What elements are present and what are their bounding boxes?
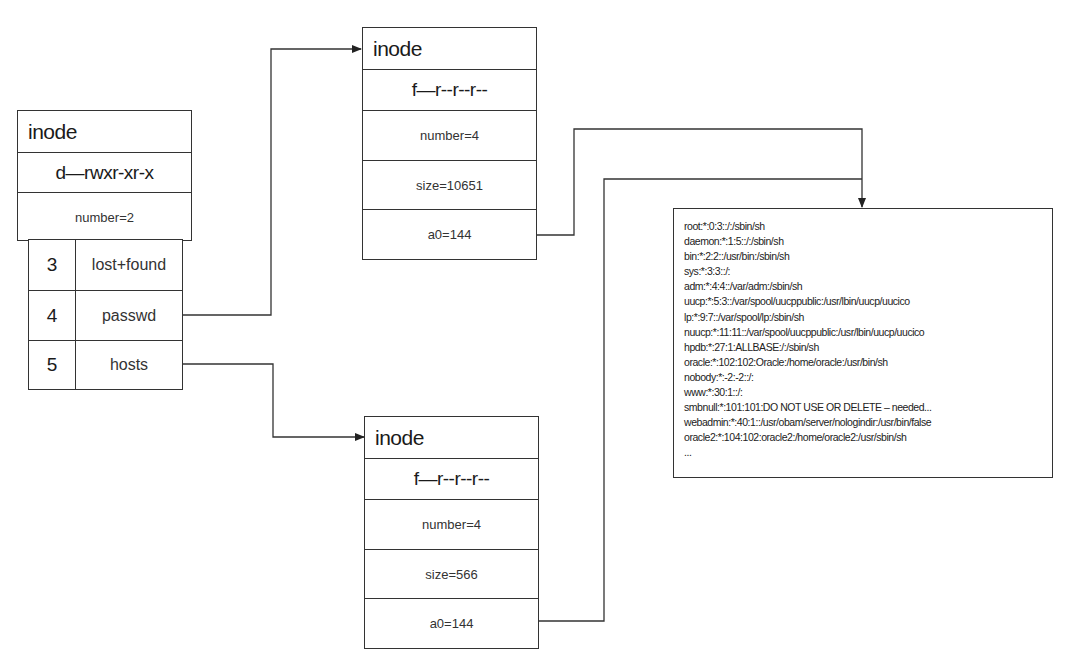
- passwd-line: oracle2:*:104:102:oracle2:/home/oracle2:…: [684, 430, 1052, 445]
- entry-name: passwd: [76, 291, 182, 340]
- root-inode: inode d—rwxr-xr-x number=2: [17, 110, 192, 241]
- passwd-line: webadmin:*:40:1::/usr/obam/server/nologi…: [684, 415, 1052, 430]
- passwd-line: adm:*:4:4::/var/adm:/sbin/sh: [684, 279, 1052, 294]
- passwd-ellipsis: ...: [684, 445, 1052, 460]
- inode-title: inode: [18, 111, 191, 152]
- passwd-line: lp:*:9:7::/var/spool/lp:/sbin/sh: [684, 310, 1052, 325]
- entry-inode-number: 5: [29, 341, 76, 389]
- passwd-line: root:*:0:3::/:/sbin/sh: [684, 219, 1052, 234]
- entry-inode-number: 3: [29, 240, 76, 290]
- inode-size: size=10651: [363, 160, 536, 209]
- entry-inode-number: 4: [29, 291, 76, 340]
- inode-number: number=4: [365, 499, 538, 549]
- arrow-passwd-to-inode: [182, 49, 361, 315]
- directory-entry: 4 passwd: [29, 290, 182, 340]
- passwd-line: bin:*:2:2::/usr/bin:/sbin/sh: [684, 249, 1052, 264]
- directory-entry: 3 lost+found: [29, 240, 182, 290]
- inode-permissions: d—rwxr-xr-x: [18, 152, 191, 192]
- passwd-line: www:*:30:1::/:: [684, 385, 1052, 400]
- entry-name: hosts: [76, 341, 182, 389]
- directory-entries-table: 3 lost+found 4 passwd 5 hosts: [28, 239, 183, 390]
- directory-entry: 5 hosts: [29, 340, 182, 389]
- inode-title: inode: [363, 28, 536, 69]
- passwd-line: uucp:*:5:3::/var/spool/uucppublic:/usr/l…: [684, 294, 1052, 309]
- inode-title: inode: [365, 417, 538, 458]
- inode-permissions: f—r--r--r--: [363, 69, 536, 110]
- passwd-line: nobody:*:-2:-2::/:: [684, 370, 1052, 385]
- passwd-line: smbnull:*:101:101:DO NOT USE OR DELETE –…: [684, 400, 1052, 415]
- inode-address-a0: a0=144: [365, 598, 538, 648]
- inode-address-a0: a0=144: [363, 209, 536, 259]
- passwd-line: sys:*:3:3::/:: [684, 264, 1052, 279]
- passwd-line: hpdb:*:27:1:ALLBASE:/:/sbin/sh: [684, 340, 1052, 355]
- passwd-line: nuucp:*:11:11::/var/spool/uucppublic:/us…: [684, 325, 1052, 340]
- arrow-hosts-to-inode: [182, 364, 364, 437]
- passwd-data-block: root:*:0:3::/:/sbin/sh daemon:*:1:5::/:/…: [673, 208, 1053, 478]
- passwd-line: daemon:*:1:5::/:/sbin/sh: [684, 234, 1052, 249]
- hosts-inode: inode f—r--r--r-- number=4 size=566 a0=1…: [364, 416, 539, 649]
- entry-name: lost+found: [76, 240, 182, 290]
- inode-number: number=2: [18, 192, 191, 241]
- inode-number: number=4: [363, 110, 536, 160]
- inode-permissions: f—r--r--r--: [365, 458, 538, 499]
- passwd-line: oracle:*:102:102:Oracle:/home/oracle:/us…: [684, 355, 1052, 370]
- passwd-inode: inode f—r--r--r-- number=4 size=10651 a0…: [362, 27, 537, 260]
- inode-size: size=566: [365, 549, 538, 598]
